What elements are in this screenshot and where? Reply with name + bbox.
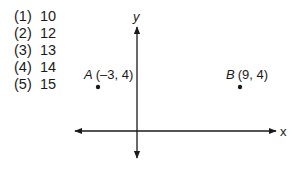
point-a — [96, 85, 100, 89]
x-axis-label: x — [280, 124, 287, 139]
coordinate-plane: y x A(–3, 4) B(9, 4) — [0, 0, 301, 169]
point-b-label: B(9, 4) — [226, 67, 268, 82]
point-b — [238, 85, 242, 89]
y-axis-label: y — [132, 9, 141, 24]
point-a-coords: (–3, 4) — [96, 67, 134, 82]
point-b-name: B — [226, 67, 235, 82]
point-a-name: A — [83, 67, 93, 82]
point-a-label: A(–3, 4) — [83, 67, 133, 82]
point-b-coords: (9, 4) — [238, 67, 268, 82]
